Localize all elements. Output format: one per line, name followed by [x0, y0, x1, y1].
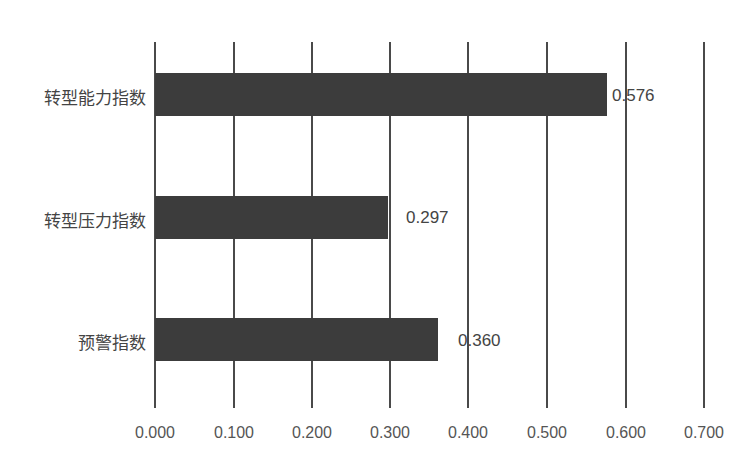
horizontal-bar-chart: 转型能力指数 转型压力指数 预警指数 0.576 0.297 0.360 0.0… — [0, 0, 752, 468]
bar-transformation-pressure — [155, 196, 388, 239]
bar-warning-index — [155, 318, 438, 361]
category-label: 转型能力指数 — [44, 84, 146, 109]
x-tick-label: 0.700 — [684, 424, 724, 442]
x-tick-label: 0.200 — [292, 424, 332, 442]
value-label: 0.576 — [612, 86, 655, 106]
gridline-7 — [703, 42, 705, 408]
x-tick-label: 0.100 — [214, 424, 254, 442]
category-label: 转型压力指数 — [44, 207, 146, 232]
x-tick-label: 0.600 — [606, 424, 646, 442]
bar-transformation-capability — [155, 73, 607, 116]
value-label: 0.297 — [406, 208, 449, 228]
value-label: 0.360 — [458, 331, 501, 351]
x-tick-label: 0.300 — [370, 424, 410, 442]
x-tick-label: 0.400 — [448, 424, 488, 442]
x-tick-label: 0.000 — [135, 424, 175, 442]
x-tick-label: 0.500 — [527, 424, 567, 442]
category-label: 预警指数 — [78, 329, 146, 354]
